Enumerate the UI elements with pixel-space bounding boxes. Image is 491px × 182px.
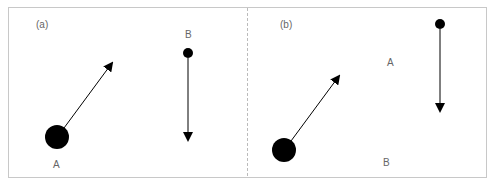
velocity-arrow-a bbox=[64, 63, 112, 128]
velocity-arrow-a bbox=[291, 76, 339, 141]
ball-a-large bbox=[45, 125, 69, 149]
label-b: B bbox=[185, 29, 192, 40]
ball-b-small bbox=[435, 19, 445, 29]
label-b: B bbox=[383, 157, 390, 168]
ball-a-large bbox=[272, 138, 296, 162]
label-a: A bbox=[53, 159, 60, 170]
label-a: A bbox=[387, 57, 394, 68]
diagram: (a) A B (b) A B bbox=[0, 0, 491, 182]
panel-a: (a) A B bbox=[36, 19, 193, 170]
ball-b-small bbox=[183, 48, 193, 58]
panel-a-tag: (a) bbox=[36, 19, 48, 30]
panel-b: (b) A B bbox=[272, 19, 445, 168]
panel-b-tag: (b) bbox=[280, 19, 292, 30]
